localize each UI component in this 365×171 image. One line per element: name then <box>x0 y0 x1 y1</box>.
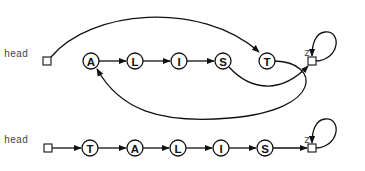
svg-text:S: S <box>261 143 269 155</box>
svg-text:A: A <box>87 56 95 68</box>
top-t-to-a-edge <box>97 61 306 119</box>
bottom-head-node <box>44 144 52 152</box>
linked-list-diagram: head z A L I S <box>0 0 365 171</box>
svg-text:A: A <box>131 143 139 155</box>
top-node-i: I <box>171 53 187 69</box>
svg-text:I: I <box>219 143 222 155</box>
svg-text:S: S <box>219 56 227 68</box>
top-head-label: head <box>4 49 28 60</box>
top-z-node <box>308 57 316 65</box>
top-head-node <box>43 57 51 65</box>
bottom-node-i: I <box>213 140 229 156</box>
bottom-node-a: A <box>127 140 143 156</box>
svg-text:T: T <box>86 143 93 155</box>
bottom-node-l: L <box>170 140 186 156</box>
bottom-list: head z T A L I S <box>4 119 336 156</box>
top-node-a: A <box>83 53 99 69</box>
top-node-t: T <box>259 53 275 69</box>
top-node-l: L <box>127 53 143 69</box>
svg-text:L: L <box>131 56 138 68</box>
bottom-head-label: head <box>4 135 28 146</box>
svg-text:L: L <box>174 143 181 155</box>
bottom-z-node <box>308 144 316 152</box>
top-head-to-t-edge <box>51 17 259 57</box>
bottom-node-s: S <box>257 140 273 156</box>
svg-text:T: T <box>263 56 270 68</box>
top-list: head z A L I S <box>4 17 336 119</box>
bottom-node-t: T <box>82 140 98 156</box>
svg-text:I: I <box>177 56 180 68</box>
top-node-s: S <box>215 53 231 69</box>
